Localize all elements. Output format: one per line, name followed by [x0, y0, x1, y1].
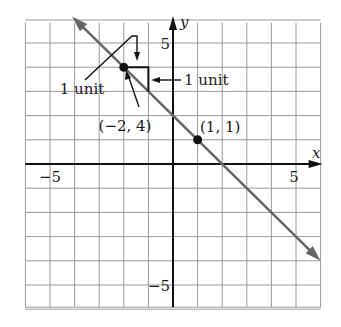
point-label-1-1: (1, 1) — [200, 118, 240, 136]
coordinate-plane: x y −5 5 5 −5 (−2, 4) (1, 1) 1 unit 1 un… — [0, 0, 341, 327]
y-axis-label: y — [179, 13, 189, 31]
annotation-run-unit: 1 unit — [184, 71, 228, 89]
data-point — [119, 63, 128, 72]
data-point — [193, 135, 202, 144]
annotation-rise-arrowhead — [134, 52, 140, 61]
y-tick-label-neg5: −5 — [148, 277, 170, 295]
y-tick-label-5: 5 — [160, 35, 170, 53]
x-tick-label-5: 5 — [289, 168, 299, 186]
point-label-neg2-4: (−2, 4) — [99, 117, 152, 135]
marks — [72, 16, 320, 260]
labels: x y −5 5 5 −5 (−2, 4) (1, 1) 1 unit 1 un… — [39, 13, 321, 295]
x-tick-label-neg5: −5 — [39, 168, 61, 186]
axes — [25, 16, 322, 307]
annotation-run-arrowhead — [151, 77, 160, 83]
annotation-rise-unit: 1 unit — [60, 80, 104, 98]
y-axis-arrowhead — [169, 16, 177, 30]
x-axis-label: x — [312, 144, 321, 162]
